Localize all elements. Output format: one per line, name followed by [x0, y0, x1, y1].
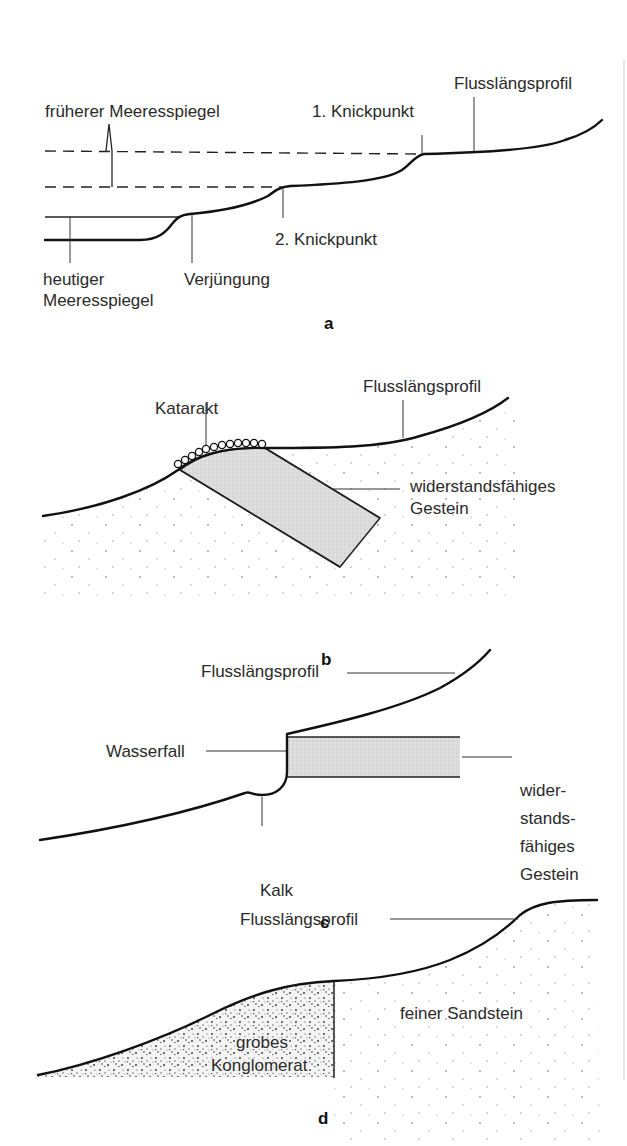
label-waterfall: Wasserfall — [106, 742, 185, 761]
label-knickpoint-2: 2. Knickpunkt — [275, 230, 377, 249]
label-resistant-rock-c-1: wider- — [519, 781, 566, 800]
panel-c: Flusslängsprofil Wasserfall Kalk wider- … — [40, 650, 579, 932]
river-profile-a — [45, 120, 602, 240]
label-current-sea-level-1: heutiger — [43, 270, 105, 289]
sublabel-b: b — [321, 650, 331, 669]
panel-d: Flusslängsprofil grobes Konglomerat fein… — [38, 900, 600, 1140]
panel-a: früherer Meeresspiegel 1. Knickpunkt Flu… — [43, 74, 602, 333]
label-profile-d: Flusslängsprofil — [240, 910, 358, 929]
river-longitudinal-profile-figure: früherer Meeresspiegel 1. Knickpunkt Flu… — [0, 0, 627, 1146]
label-conglomerate-2: Konglomerat — [211, 1056, 308, 1075]
label-former-sea-level: früherer Meeresspiegel — [45, 102, 220, 121]
label-resistant-rock-b-1: widerstandsfähiges — [409, 477, 556, 496]
label-fine-sandstone: feiner Sandstein — [400, 1004, 523, 1023]
label-rejuvenation: Verjüngung — [184, 270, 270, 289]
label-cataract: Katarakt — [155, 399, 219, 418]
resistant-rock-band-c — [287, 737, 460, 777]
label-conglomerate-1: grobes — [236, 1033, 288, 1052]
arrow-up-icon — [106, 124, 112, 151]
label-profile-c: Flusslängsprofil — [201, 662, 319, 681]
label-knickpoint-1: 1. Knickpunkt — [312, 102, 414, 121]
label-plunge-pool: Kalk — [260, 881, 294, 900]
label-profile-a: Flusslängsprofil — [454, 74, 572, 93]
label-resistant-rock-c-3: fähiges — [520, 837, 575, 856]
label-resistant-rock-c-4: Gestein — [520, 865, 579, 884]
label-resistant-rock-c-2: stands- — [520, 809, 576, 828]
label-resistant-rock-b-2: Gestein — [410, 499, 469, 518]
panel-b: Katarakt Flusslängsprofil widerstandsfäh… — [43, 377, 556, 669]
former-sea-level-dashed-line-upper — [45, 151, 420, 154]
sublabel-a: a — [324, 314, 334, 333]
label-current-sea-level-2: Meeresspiegel — [43, 291, 154, 310]
sublabel-d: d — [318, 1109, 328, 1128]
label-profile-b: Flusslängsprofil — [363, 377, 481, 396]
